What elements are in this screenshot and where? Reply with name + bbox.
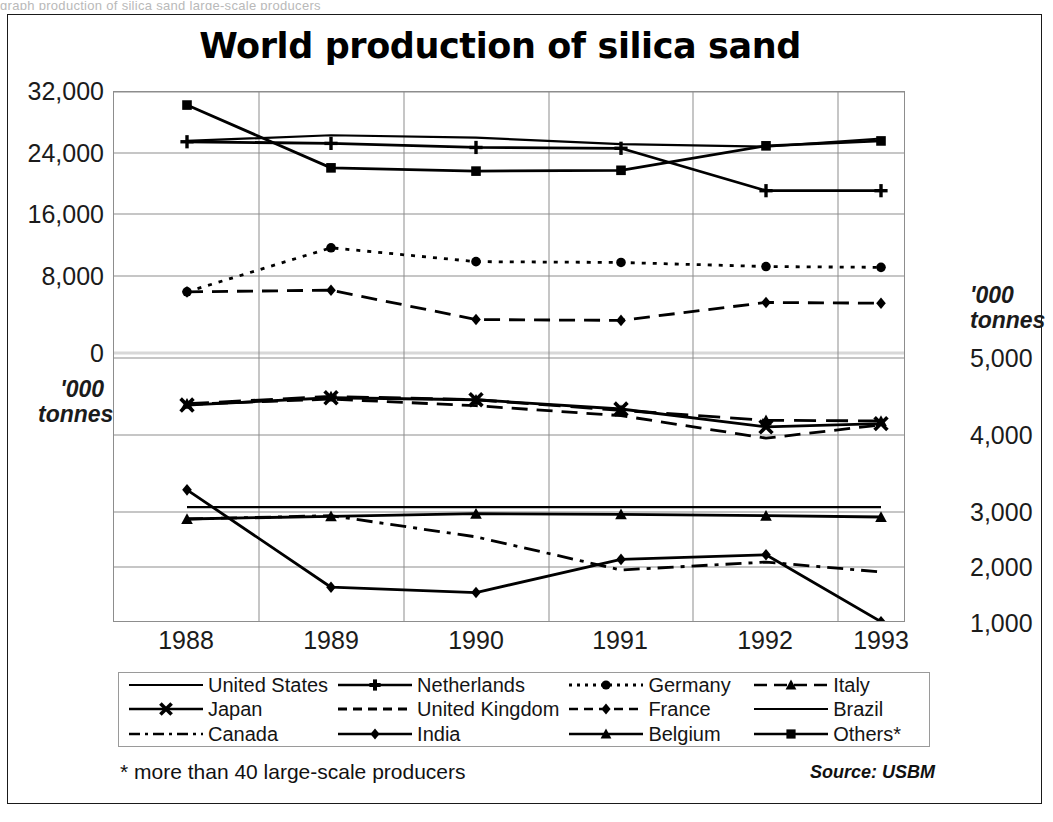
- legend-item-india[interactable]: India: [328, 724, 559, 744]
- legend-label: Japan: [208, 699, 263, 719]
- legend-key-line-plain-icon: [752, 701, 830, 717]
- left-axis-tick-24000: 24,000: [28, 141, 104, 166]
- right-axis-unit-line1: '000: [970, 283, 1045, 308]
- plot-svg: [114, 92, 904, 621]
- legend-label: France: [648, 699, 710, 719]
- legend-label: United States: [208, 675, 328, 695]
- chart-legend: United StatesNetherlandsGermanyItalyJapa…: [118, 672, 930, 747]
- x-axis-tick-1988: 1988: [131, 628, 241, 653]
- legend-key-dashed-plain-icon: [336, 701, 414, 717]
- legend-key-dotted-circle-icon: [567, 677, 645, 693]
- legend-item-brazil[interactable]: Brazil: [744, 699, 929, 719]
- right-axis-unit-line2: tonnes: [970, 308, 1045, 333]
- right-axis-tick-3000: 3,000: [970, 500, 1033, 525]
- left-axis-unit-line1: '000: [38, 377, 104, 402]
- x-axis-tick-1993: 1993: [826, 628, 936, 653]
- legend-label: Others*: [833, 724, 901, 744]
- legend-label: Italy: [833, 675, 870, 695]
- left-axis-tick-32000: 32,000: [28, 79, 104, 104]
- legend-item-canada[interactable]: Canada: [119, 724, 328, 744]
- legend-item-united-states[interactable]: United States: [119, 675, 328, 695]
- series-india: [182, 484, 886, 621]
- legend-key-dashed-diamond-icon: [567, 701, 645, 717]
- x-axis-tick-1990: 1990: [421, 628, 531, 653]
- series-layer: [180, 100, 887, 621]
- chart-footnote: * more than 40 large-scale producers: [120, 760, 466, 784]
- legend-item-belgium[interactable]: Belgium: [559, 724, 744, 744]
- legend-item-italy[interactable]: Italy: [744, 675, 929, 695]
- legend-label: Canada: [208, 724, 278, 744]
- legend-item-germany[interactable]: Germany: [559, 675, 744, 695]
- plot-area: [113, 91, 905, 622]
- right-axis-tick-5000: 5,000: [970, 346, 1033, 371]
- legend-key-line-x-icon: [127, 701, 205, 717]
- legend-label: Brazil: [833, 699, 883, 719]
- legend-key-dashdot-plain-icon: [127, 726, 205, 742]
- chart-source: Source: USBM: [810, 762, 935, 783]
- legend-label: India: [417, 724, 460, 744]
- left-axis-tick-8000: 8,000: [41, 264, 104, 289]
- legend-key-line-plus-icon: [336, 677, 414, 693]
- series-united-kingdom: [187, 399, 881, 438]
- left-axis-unit-line2: tonnes: [38, 402, 104, 427]
- right-axis-tick-2000: 2,000: [970, 555, 1033, 580]
- series-belgium: [181, 508, 887, 524]
- legend-label: Netherlands: [417, 675, 525, 695]
- scan-artifact-text: graph production of silica sand large-sc…: [0, 0, 1053, 10]
- legend-key-longdash-triangle-icon: [752, 677, 830, 693]
- left-axis-tick-0: 0: [90, 341, 104, 366]
- x-axis-tick-1989: 1989: [276, 628, 386, 653]
- legend-key-line-triangle-icon: [567, 726, 645, 742]
- chart-page: graph production of silica sand large-sc…: [0, 0, 1053, 822]
- legend-key-line-square-icon: [752, 726, 830, 742]
- right-axis-tick-4000: 4,000: [970, 423, 1033, 448]
- legend-item-others-[interactable]: Others*: [744, 724, 929, 744]
- series-canada: [187, 516, 881, 572]
- legend-label: Belgium: [648, 724, 720, 744]
- legend-item-france[interactable]: France: [559, 699, 744, 719]
- series-france: [182, 284, 886, 326]
- legend-item-netherlands[interactable]: Netherlands: [328, 675, 559, 695]
- left-axis: 32,000 24,000 16,000 8,000 0 '000 tonnes: [0, 0, 104, 700]
- legend-key-line-diamond-icon: [336, 726, 414, 742]
- legend-item-japan[interactable]: Japan: [119, 699, 328, 719]
- series-others-: [182, 100, 886, 176]
- chart-title: World production of silica sand: [120, 26, 880, 66]
- x-axis-tick-1992: 1992: [710, 628, 820, 653]
- x-axis-tick-1991: 1991: [565, 628, 675, 653]
- series-germany: [182, 243, 886, 297]
- legend-label: United Kingdom: [417, 699, 559, 719]
- right-axis-tick-1000: 1,000: [970, 611, 1033, 636]
- right-axis: '000 tonnes 5,000 4,000 3,000 2,000 1,00…: [918, 0, 1053, 700]
- series-italy: [181, 391, 887, 426]
- legend-key-line-plain-icon: [127, 677, 205, 693]
- legend-item-united-kingdom[interactable]: United Kingdom: [328, 699, 559, 719]
- legend-label: Germany: [648, 675, 730, 695]
- left-axis-tick-16000: 16,000: [28, 202, 104, 227]
